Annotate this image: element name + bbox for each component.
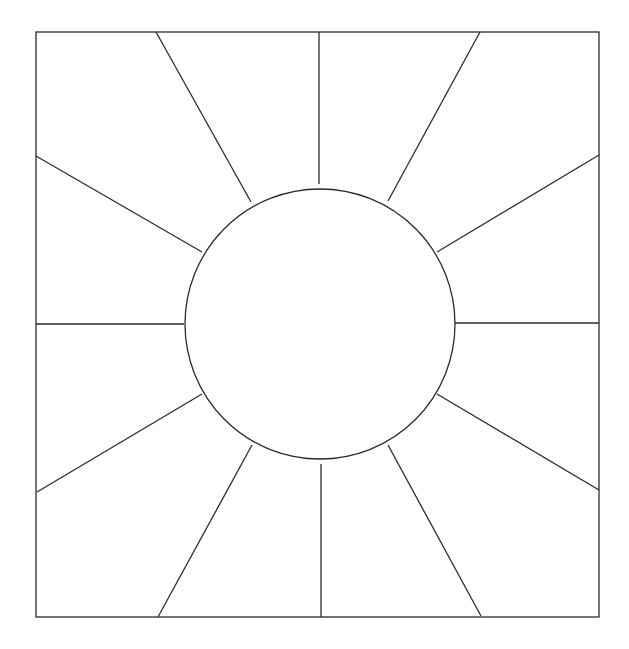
center-circle bbox=[185, 189, 455, 459]
ray-left-upper bbox=[36, 156, 202, 252]
ray-right-lower bbox=[437, 394, 599, 490]
ray-right-upper bbox=[437, 155, 599, 252]
diagram-canvas bbox=[0, 0, 629, 649]
sunburst-diagram bbox=[0, 0, 629, 649]
ray-top-left bbox=[156, 32, 251, 202]
ray-left-lower bbox=[37, 394, 202, 492]
ray-top-right bbox=[388, 32, 480, 201]
ray-bottom-left bbox=[158, 445, 252, 617]
ray-bottom-right bbox=[388, 445, 481, 616]
